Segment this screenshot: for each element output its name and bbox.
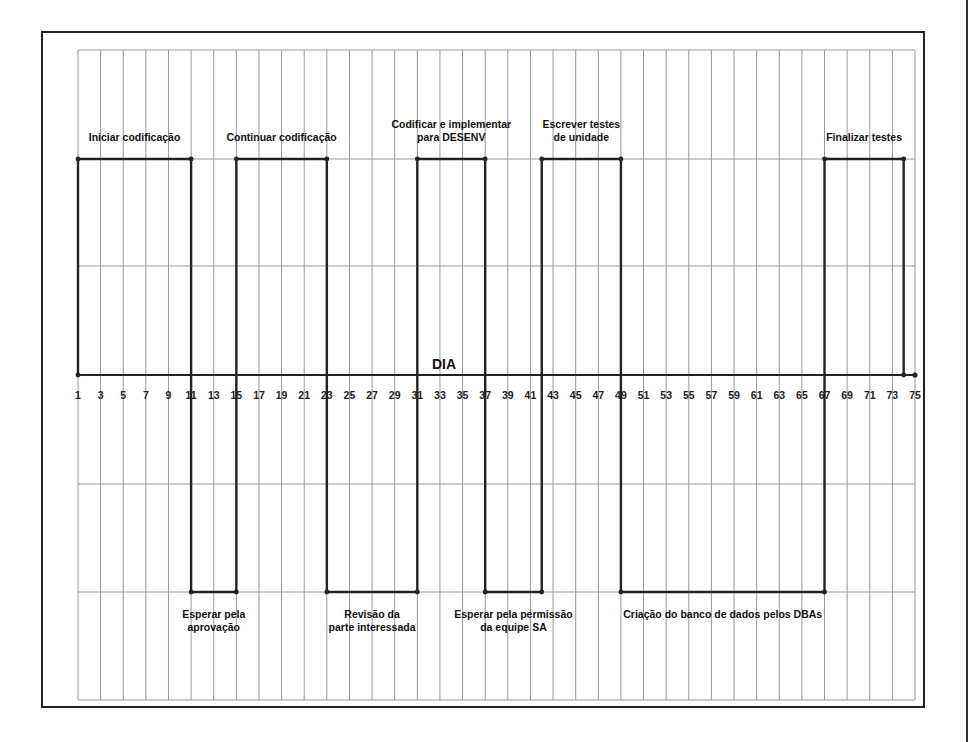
vertex-dot xyxy=(483,157,488,162)
x-tick-label: 3 xyxy=(98,389,104,401)
x-tick-label: 1 xyxy=(75,389,81,401)
x-tick-label: 41 xyxy=(525,389,537,401)
diagram-stage: 1357911131517192123252729313335373941434… xyxy=(0,0,976,742)
x-tick-label: 19 xyxy=(276,389,288,401)
segment-label: Codificar e implementar xyxy=(391,118,511,130)
x-tick-label: 63 xyxy=(773,389,785,401)
x-tick-label: 73 xyxy=(887,389,899,401)
x-tick-label: 43 xyxy=(547,389,559,401)
vertex-dot xyxy=(901,157,906,162)
x-axis-title: DIA xyxy=(432,356,456,372)
x-tick-label: 21 xyxy=(298,389,310,401)
vertex-dot xyxy=(324,590,329,595)
vertex-dot xyxy=(483,590,488,595)
x-tick-label: 61 xyxy=(751,389,763,401)
x-tick-label: 65 xyxy=(796,389,808,401)
segment-label: Esperar pela xyxy=(182,608,245,620)
vertex-dot xyxy=(539,157,544,162)
x-tick-label: 57 xyxy=(706,389,718,401)
step-waveform xyxy=(76,157,918,595)
vertex-dot xyxy=(415,590,420,595)
x-tick-label: 27 xyxy=(366,389,378,401)
x-tick-label: 55 xyxy=(683,389,695,401)
x-tick-label: 45 xyxy=(570,389,582,401)
x-tick-label: 67 xyxy=(819,389,831,401)
x-tick-label: 11 xyxy=(186,389,197,401)
segment-label: Continuar codificação xyxy=(226,131,336,143)
segment-label: Esperar pela permissão xyxy=(454,608,572,620)
vertex-dot xyxy=(234,590,239,595)
segment-label: Criação do banco de dados pelos DBAs xyxy=(623,608,822,620)
x-tick-label: 59 xyxy=(728,389,740,401)
segment-label: aprovação xyxy=(187,621,240,633)
segment-label: parte interessada xyxy=(329,621,416,633)
x-tick-label: 31 xyxy=(411,389,423,401)
segment-label: da equipe SA xyxy=(480,621,547,633)
x-tick-label: 49 xyxy=(615,389,627,401)
x-tick-label: 9 xyxy=(166,389,172,401)
x-tick-label: 7 xyxy=(143,389,149,401)
x-tick-label: 69 xyxy=(841,389,853,401)
x-tick-label: 37 xyxy=(479,389,491,401)
x-tick-label: 39 xyxy=(502,389,514,401)
vertex-dot xyxy=(76,373,81,378)
segment-label: para DESENV xyxy=(417,131,485,143)
x-tick-label: 75 xyxy=(909,389,921,401)
vertex-dot xyxy=(619,157,624,162)
vertex-dot xyxy=(234,157,239,162)
x-tick-label: 23 xyxy=(321,389,333,401)
vertex-dot xyxy=(76,157,81,162)
vertex-dot xyxy=(415,157,420,162)
vertex-dot xyxy=(901,373,906,378)
vertex-dot xyxy=(539,590,544,595)
x-tick-label: 71 xyxy=(864,389,876,401)
x-tick-label: 5 xyxy=(120,389,126,401)
x-tick-label: 25 xyxy=(344,389,356,401)
x-axis-ticks: 1357911131517192123252729313335373941434… xyxy=(75,389,921,401)
segment-label: Iniciar codificação xyxy=(89,131,181,143)
x-tick-label: 29 xyxy=(389,389,401,401)
x-tick-label: 35 xyxy=(457,389,469,401)
x-tick-label: 47 xyxy=(592,389,604,401)
vertex-dot xyxy=(324,157,329,162)
x-tick-label: 53 xyxy=(660,389,672,401)
vertex-dot xyxy=(189,590,194,595)
vertex-dot xyxy=(822,157,827,162)
x-tick-label: 17 xyxy=(253,389,265,401)
segment-label: de unidade xyxy=(554,131,610,143)
x-tick-label: 51 xyxy=(638,389,650,401)
timeline-chart: 1357911131517192123252729313335373941434… xyxy=(0,0,976,742)
axis-end-dot xyxy=(912,372,917,377)
x-tick-label: 13 xyxy=(208,389,220,401)
segment-label: Escrever testes xyxy=(543,118,621,130)
segment-label: Finalizar testes xyxy=(826,131,902,143)
vertex-dot xyxy=(189,157,194,162)
segment-label: Revisão da xyxy=(344,608,400,620)
x-tick-label: 33 xyxy=(434,389,446,401)
vertex-dot xyxy=(619,590,624,595)
x-tick-label: 15 xyxy=(231,389,243,401)
vertex-dot xyxy=(822,590,827,595)
